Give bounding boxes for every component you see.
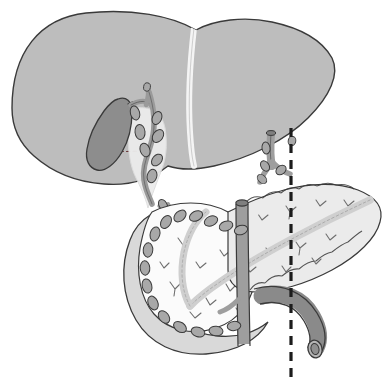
illustration-canvas	[0, 0, 392, 387]
anatomy-illustration	[0, 0, 392, 387]
smv-trunk	[242, 202, 244, 344]
smv-cut-lumen	[236, 200, 248, 206]
celiac-cut-lumen	[266, 131, 275, 136]
